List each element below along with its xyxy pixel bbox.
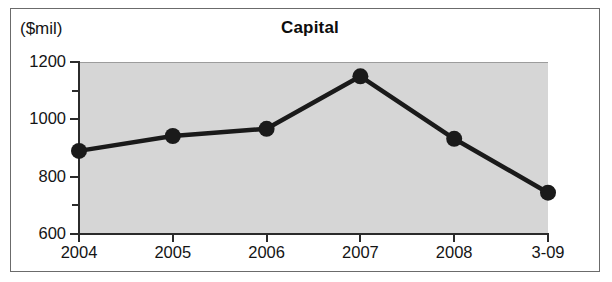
- y-tick-label: 1000: [18, 109, 66, 128]
- x-tick: [266, 234, 268, 242]
- x-tick-label: 2006: [227, 243, 307, 262]
- x-tick: [172, 234, 174, 242]
- x-axis-line: [78, 233, 549, 235]
- plot-area: [79, 62, 548, 234]
- y-tick-major: [70, 176, 79, 178]
- x-tick: [453, 234, 455, 242]
- x-tick: [78, 234, 80, 242]
- y-tick-major: [70, 61, 79, 63]
- x-tick-label: 2008: [414, 243, 494, 262]
- page-title: Capital: [0, 18, 612, 38]
- x-tick-label: 2007: [320, 243, 400, 262]
- y-tick-major: [70, 118, 79, 120]
- chart-figure: ($mil) Capital 60080010001200 2004200520…: [0, 0, 612, 282]
- y-tick-minor: [72, 147, 79, 149]
- y-tick-minor: [72, 90, 79, 92]
- x-tick: [359, 234, 361, 242]
- y-tick-minor: [72, 204, 79, 206]
- x-tick-label: 3-09: [508, 243, 588, 262]
- x-tick: [547, 234, 549, 242]
- y-tick-label: 800: [18, 167, 66, 186]
- y-tick-label: 1200: [18, 52, 66, 71]
- y-tick-label: 600: [18, 224, 66, 243]
- x-tick-label: 2005: [133, 243, 213, 262]
- chart-title-text: Capital: [281, 18, 339, 37]
- x-tick-label: 2004: [39, 243, 119, 262]
